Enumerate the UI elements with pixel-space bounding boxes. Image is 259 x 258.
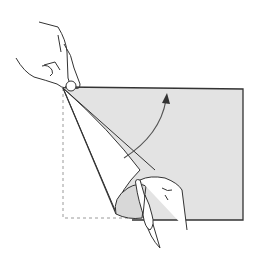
top-hand	[16, 22, 80, 91]
fold-diagram	[0, 0, 259, 258]
fold-illustration	[0, 0, 259, 258]
